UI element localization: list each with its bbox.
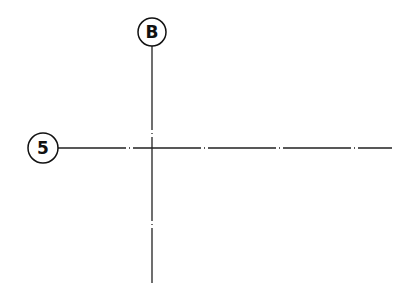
grid-diagram: B 5	[0, 0, 405, 296]
grid-line-b: B	[138, 18, 166, 283]
grid-line-5: 5	[28, 133, 392, 163]
grid-label-5: 5	[37, 138, 49, 158]
grid-label-b: B	[146, 22, 159, 42]
